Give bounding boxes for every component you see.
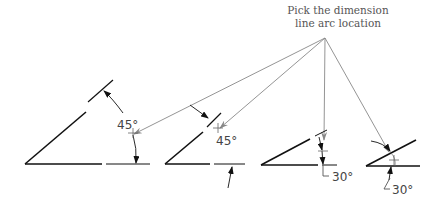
dimension-diagram: 45° 45° 30° 30° xyxy=(0,0,441,205)
angle-label-1: 45° xyxy=(117,118,138,132)
angle-label-3: 30° xyxy=(332,170,353,184)
leader-line-3 xyxy=(324,38,325,140)
angle-label-4: 30° xyxy=(392,183,413,197)
example-3 xyxy=(261,130,337,176)
leader-lines xyxy=(134,38,389,152)
example-4 xyxy=(366,140,420,189)
leader-line-4 xyxy=(325,38,389,152)
angle-label-2: 45° xyxy=(216,134,237,148)
